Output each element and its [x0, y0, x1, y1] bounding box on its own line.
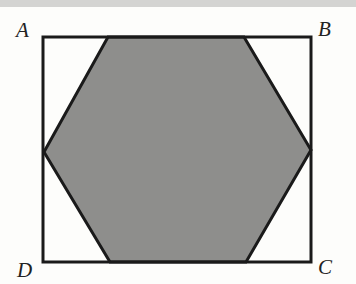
geometry-figure: [0, 0, 356, 284]
label-c: C: [318, 255, 332, 280]
label-a: A: [16, 18, 29, 43]
label-b: B: [318, 17, 331, 42]
shaded-hexagon: [44, 37, 311, 262]
label-d: D: [17, 258, 32, 283]
